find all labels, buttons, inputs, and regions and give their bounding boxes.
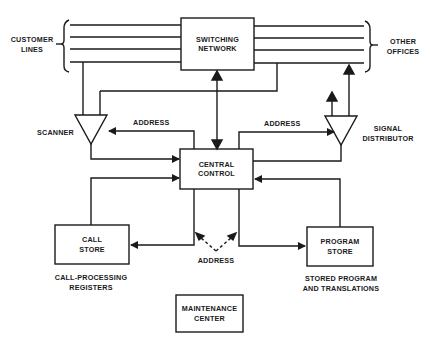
other-offices-label: OTHER OFFICES — [379, 37, 427, 56]
other-offices-brace — [365, 21, 373, 72]
maintenance-center-label: MAINTENANCE CENTER — [176, 295, 243, 332]
central-control-label: CENTRAL CONTROL — [180, 149, 253, 189]
address-label-distributor: ADDRESS — [264, 119, 301, 129]
program-store-label: PROGRAM STORE — [307, 227, 373, 266]
call-store-label: CALL STORE — [55, 225, 129, 264]
trunk-lines — [254, 26, 364, 63]
customer-lines-brace — [61, 20, 69, 72]
address-label-stores: ADDRESS — [192, 256, 240, 266]
signal-distributor-label: SIGNAL DISTRIBUTOR — [354, 124, 422, 143]
customer-lines-label: CUSTOMER LINES — [8, 35, 56, 54]
call-store-caption: CALL-PROCESSING REGISTERS — [48, 273, 134, 292]
scanner-triangle — [75, 115, 107, 144]
signal-distributor-triangle — [325, 116, 357, 145]
switching-network-label: SWITCHING NETWORK — [181, 18, 254, 70]
scanner-label: SCANNER — [37, 128, 74, 138]
program-store-caption: STORED PROGRAM AND TRANSLATIONS — [298, 274, 384, 293]
customer-lines — [70, 25, 181, 62]
address-label-scanner: ADDRESS — [133, 118, 170, 128]
